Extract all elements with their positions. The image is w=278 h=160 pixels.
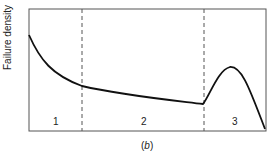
chart-plot (0, 0, 278, 160)
y-axis-label: Failure density (2, 5, 13, 70)
region-label-1: 1 (53, 116, 59, 127)
region-label-2: 2 (141, 116, 147, 127)
plot-frame (29, 9, 266, 131)
figure-caption: (b) (141, 140, 153, 151)
failure-density-curve (29, 35, 265, 129)
caption-letter: b (144, 140, 150, 151)
region-label-3: 3 (232, 116, 238, 127)
